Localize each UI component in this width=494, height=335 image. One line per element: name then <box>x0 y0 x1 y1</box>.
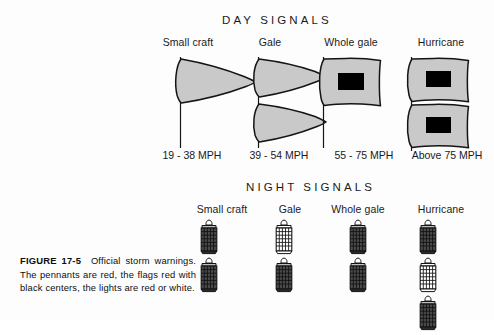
night-signal-small-craft <box>196 219 222 301</box>
lantern-stack-gale <box>271 219 297 301</box>
flag-group-hurricane <box>400 54 490 152</box>
figure-caption: FIGURE 17-5 Official storm warnings. The… <box>20 254 196 295</box>
figure-caption-number: FIGURE 17-5 <box>20 255 81 266</box>
night-signal-whole-gale <box>345 219 371 301</box>
flag-group-whole-gale <box>312 54 402 149</box>
lantern-stack-small-craft <box>196 219 222 301</box>
night-column-label-hurricane: Hurricane <box>399 203 483 215</box>
day-signals-title: DAY SIGNALS <box>222 14 332 26</box>
night-signal-hurricane <box>415 219 441 335</box>
day-signal-hurricane <box>400 54 490 152</box>
lantern-dark-1 <box>350 220 366 254</box>
day-column-label-gale: Gale <box>235 36 305 48</box>
lantern-dark-1 <box>201 220 217 254</box>
lantern-dark-2 <box>350 258 366 292</box>
flag-black-center-lower <box>426 117 451 133</box>
day-column-label-small-craft: Small craft <box>143 36 233 48</box>
lantern-stack-whole-gale <box>345 219 371 301</box>
lantern-dark-2 <box>201 258 217 292</box>
day-column-label-whole-gale: Whole gale <box>308 36 394 48</box>
lantern-light-1 <box>420 258 436 292</box>
night-column-label-whole-gale: Whole gale <box>315 203 401 215</box>
lantern-dark-1 <box>276 258 292 292</box>
lantern-dark-2 <box>420 296 436 330</box>
day-speed-small-craft: 19 - 38 MPH <box>148 149 236 161</box>
day-speed-hurricane: Above 75 MPH <box>401 149 493 161</box>
day-speed-gale: 39 - 54 MPH <box>235 149 323 161</box>
day-column-label-hurricane: Hurricane <box>398 36 484 48</box>
lantern-stack-hurricane <box>415 219 441 335</box>
flag-black-center-upper <box>426 71 451 87</box>
night-signal-gale <box>271 219 297 301</box>
day-speed-whole-gale: 55 - 75 MPH <box>320 149 408 161</box>
lantern-light-1 <box>276 220 292 254</box>
night-column-label-small-craft: Small craft <box>177 203 267 215</box>
day-signal-whole-gale <box>312 54 402 149</box>
pennant-shape <box>176 59 256 103</box>
caption-gap <box>81 255 91 266</box>
lantern-dark-1 <box>420 220 436 254</box>
night-signals-title: NIGHT SIGNALS <box>246 181 375 193</box>
flag-black-center <box>338 73 364 90</box>
